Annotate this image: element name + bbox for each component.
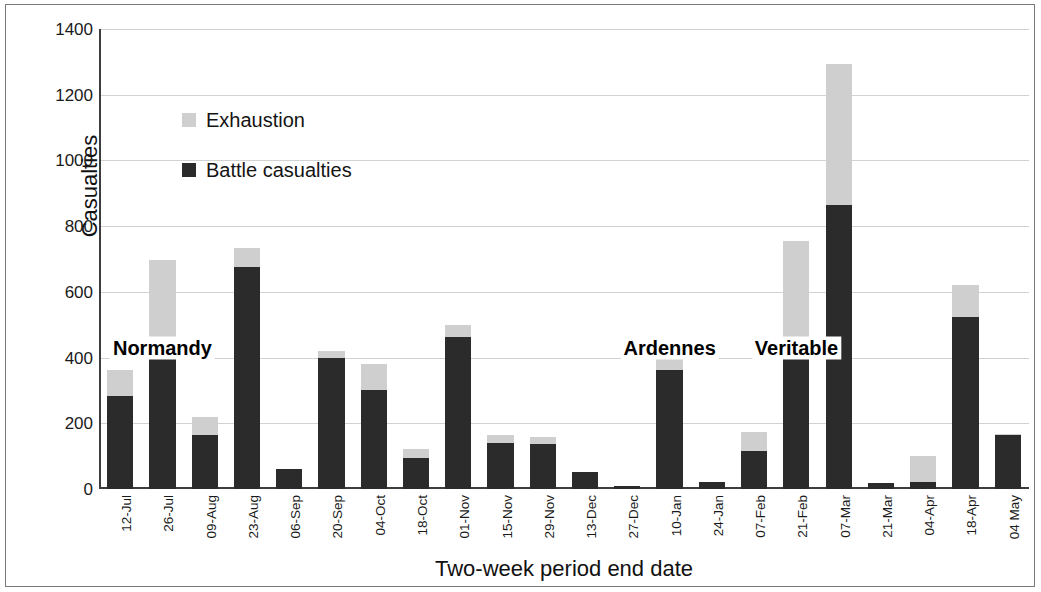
x-axis-tick-label: 24-Jan [712, 495, 726, 536]
x-axis-tick-label: 04 May [1008, 495, 1022, 539]
bar-slot [268, 29, 310, 489]
bar-segment-battle-casualties [868, 483, 894, 489]
stacked-bar[interactable] [403, 449, 429, 489]
bar-segment-battle-casualties [361, 390, 387, 489]
bar-slot [860, 29, 902, 489]
bar-segment-battle-casualties [149, 350, 175, 489]
y-axis-tick-label: 1200 [33, 86, 93, 103]
x-tick-slot: 23-Aug [226, 491, 268, 553]
stacked-bar[interactable] [530, 437, 556, 489]
stacked-bar[interactable] [826, 64, 852, 489]
bar-slot [902, 29, 944, 489]
legend-swatch-icon [182, 113, 196, 127]
bar-segment-exhaustion [445, 325, 471, 337]
legend-item-label: Exhaustion [206, 109, 305, 132]
x-axis-tick-label: 23-Aug [247, 495, 261, 539]
bar-slot [437, 29, 479, 489]
stacked-bar[interactable] [487, 435, 513, 489]
x-tick-slot: 24-Jan [691, 491, 733, 553]
stacked-bar[interactable] [614, 486, 640, 489]
chart-legend: ExhaustionBattle casualties [182, 109, 352, 209]
x-tick-slot: 12-Jul [99, 491, 141, 553]
bar-segment-battle-casualties [952, 317, 978, 490]
bar-segment-exhaustion [826, 64, 852, 205]
bar-segment-battle-casualties [572, 472, 598, 489]
stacked-bar[interactable] [741, 432, 767, 489]
y-axis-tick-labels: 1400120010008006004002000 [29, 29, 93, 489]
stacked-bar[interactable] [276, 469, 302, 489]
bar-segment-battle-casualties [699, 482, 725, 489]
y-axis-tick-label: 1000 [33, 152, 93, 169]
bar-slot [606, 29, 648, 489]
y-axis-tick-label: 800 [33, 218, 93, 235]
stacked-bar[interactable] [783, 241, 809, 489]
bar-slot [564, 29, 606, 489]
x-tick-slot: 27-Dec [606, 491, 648, 553]
stacked-bar[interactable] [572, 472, 598, 489]
bar-slot [226, 29, 268, 489]
x-axis-title: Two-week period end date [99, 556, 1029, 582]
x-tick-slot: 09-Aug [184, 491, 226, 553]
legend-item[interactable]: Exhaustion [182, 109, 352, 131]
y-axis-tick-label: 200 [33, 415, 93, 432]
stacked-bar[interactable] [192, 417, 218, 489]
x-axis-tick-label: 07-Feb [754, 495, 768, 538]
bar-segment-exhaustion [234, 248, 260, 267]
stacked-bar[interactable] [868, 483, 894, 489]
bar-segment-battle-casualties [487, 443, 513, 489]
bar-segment-exhaustion [741, 432, 767, 452]
x-axis-tick-label: 20-Sep [331, 495, 345, 539]
bar-segment-exhaustion [403, 449, 429, 458]
bar-slot [353, 29, 395, 489]
bar-segment-battle-casualties [318, 358, 344, 489]
legend-item[interactable]: Battle casualties [182, 159, 352, 181]
stacked-bar[interactable] [318, 351, 344, 489]
stacked-bar[interactable] [445, 325, 471, 489]
bar-segment-exhaustion [952, 285, 978, 317]
y-axis-tick-label: 400 [33, 349, 93, 366]
x-tick-slot: 07-Feb [733, 491, 775, 553]
x-tick-slot: 20-Sep [310, 491, 352, 553]
bar-slot [775, 29, 817, 489]
bar-segment-exhaustion [487, 435, 513, 443]
bar-segment-battle-casualties [783, 344, 809, 489]
stacked-bar[interactable] [995, 434, 1021, 489]
bar-slot [395, 29, 437, 489]
legend-swatch-icon [182, 163, 196, 177]
legend-item-label: Battle casualties [206, 159, 352, 182]
x-tick-slot: 29-Nov [522, 491, 564, 553]
bar-slot [733, 29, 775, 489]
x-tick-slot: 04-Apr [902, 491, 944, 553]
x-axis-tick-label: 04-Oct [374, 495, 388, 536]
x-axis-tick-labels: 12-Jul26-Jul09-Aug23-Aug06-Sep20-Sep04-O… [99, 491, 1029, 553]
bar-segment-battle-casualties [403, 458, 429, 489]
stacked-bar[interactable] [234, 248, 260, 489]
stacked-bar[interactable] [361, 364, 387, 489]
chart-annotation: Normandy [110, 336, 215, 359]
x-axis-tick-label: 12-Jul [120, 495, 134, 532]
stacked-bar[interactable] [107, 370, 133, 489]
x-tick-slot: 26-Jul [141, 491, 183, 553]
bar-slot [522, 29, 564, 489]
x-axis-tick-label: 21-Mar [881, 495, 895, 538]
x-tick-slot: 21-Mar [860, 491, 902, 553]
bar-segment-battle-casualties [910, 482, 936, 489]
x-axis-tick-label: 26-Jul [162, 495, 176, 532]
bar-slot [184, 29, 226, 489]
x-tick-slot: 18-Oct [395, 491, 437, 553]
bar-segment-battle-casualties [656, 370, 682, 489]
stacked-bar[interactable] [952, 285, 978, 489]
bar-segment-exhaustion [107, 370, 133, 396]
stacked-bar[interactable] [699, 482, 725, 489]
bar-segment-battle-casualties [995, 435, 1021, 489]
stacked-bar[interactable] [656, 345, 682, 489]
bar-slot [99, 29, 141, 489]
x-axis-tick-label: 06-Sep [289, 495, 303, 539]
chart-annotation: Veritable [752, 336, 841, 359]
x-tick-slot: 21-Feb [775, 491, 817, 553]
stacked-bar[interactable] [910, 456, 936, 490]
x-axis-tick-label: 01-Nov [458, 495, 472, 539]
bar-segment-battle-casualties [530, 444, 556, 489]
stacked-bar[interactable] [149, 260, 175, 489]
bar-segment-exhaustion [192, 417, 218, 435]
